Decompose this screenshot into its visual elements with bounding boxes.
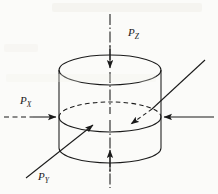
py-back-arrow [131, 109, 152, 124]
cylinder-stress-diagram: PZ PX PY [0, 0, 218, 194]
label-pz: PZ [127, 26, 140, 41]
label-px: PX [19, 94, 32, 109]
label-py: PY [37, 170, 50, 185]
figure-root: PZ PX PY [0, 0, 218, 194]
